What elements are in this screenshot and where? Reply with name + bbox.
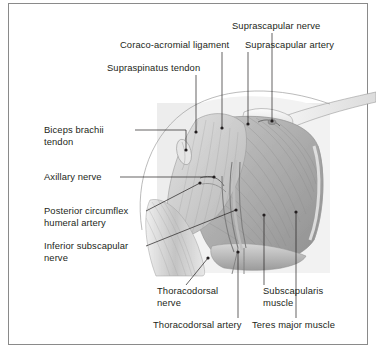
label-suprascapular-artery: Suprascapular artery: [245, 39, 334, 51]
leader-posterior-circumflex-humeral-artery: [146, 183, 200, 211]
anatomy-figure: Suprascapular nerve Suprascapular artery…: [0, 0, 376, 362]
label-subscapularis-muscle-line1: Subscapularis: [263, 285, 323, 297]
label-teres-major-muscle: Teres major muscle: [252, 319, 335, 331]
label-posterior-circumflex-line2: humeral artery: [44, 217, 106, 229]
label-thoracodorsal-nerve-line2: nerve: [157, 297, 181, 309]
label-inferior-subscapular-line2: nerve: [44, 252, 68, 264]
label-posterior-circumflex-line1: Posterior circumflex: [44, 205, 128, 217]
leader-biceps-brachii-tendon: [135, 130, 186, 150]
label-subscapularis-muscle-line2: muscle: [263, 297, 293, 309]
leader-inferior-subscapular-nerve: [146, 210, 236, 246]
label-inferior-subscapular-line1: Inferior subscapular: [44, 240, 128, 252]
label-suprascapular-nerve: Suprascapular nerve: [232, 20, 320, 32]
label-biceps-brachii-tendon-line1: Biceps brachii: [44, 124, 104, 136]
label-coraco-acromial-ligament: Coraco-acromial ligament: [120, 39, 229, 51]
leader-thoracodorsal-nerve: [186, 258, 208, 285]
label-supraspinatus-tendon: Supraspinatus tendon: [107, 62, 200, 74]
label-axillary-nerve: Axillary nerve: [44, 171, 102, 183]
label-biceps-brachii-tendon-line2: tendon: [44, 136, 73, 148]
label-thoracodorsal-nerve-line1: Thoracodorsal: [157, 285, 218, 297]
label-thoracodorsal-artery: Thoracodorsal artery: [153, 319, 242, 331]
